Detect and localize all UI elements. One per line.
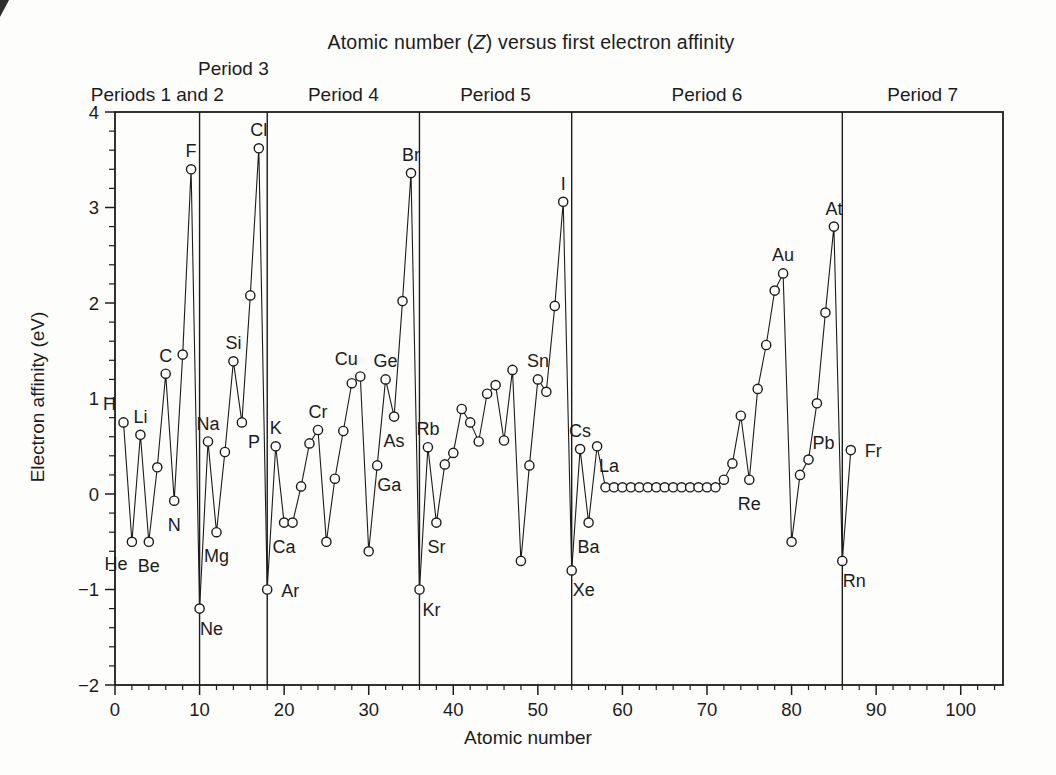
data-line <box>124 148 851 608</box>
title-variable-z: Z <box>474 31 486 53</box>
data-point <box>499 436 508 445</box>
data-point <box>812 399 821 408</box>
data-point <box>390 412 399 421</box>
data-point <box>356 372 365 381</box>
element-label: Xe <box>573 580 595 600</box>
element-label: Rb <box>416 419 439 439</box>
x-tick-label: 100 <box>945 699 976 720</box>
x-tick-label: 30 <box>358 699 379 720</box>
element-label: Fr <box>865 441 882 461</box>
element-label: Sr <box>427 537 445 557</box>
element-label: Ge <box>374 351 398 371</box>
x-tick-label: 60 <box>612 699 633 720</box>
data-point <box>838 556 847 565</box>
element-label: Au <box>772 245 794 265</box>
data-point <box>440 460 449 469</box>
title-text-post: ) versus first electron affinity <box>486 31 735 53</box>
element-label: Be <box>138 556 160 576</box>
x-axis-tick-labels: 0102030405060708090100 <box>110 699 976 720</box>
x-tick-label: 10 <box>189 699 210 720</box>
data-point <box>457 404 466 413</box>
element-label: As <box>384 431 405 451</box>
data-point <box>770 286 779 295</box>
x-tick-label: 90 <box>866 699 887 720</box>
data-point <box>237 418 246 427</box>
element-label: F <box>186 141 197 161</box>
data-point <box>297 482 306 491</box>
data-point <box>804 455 813 464</box>
x-tick-label: 50 <box>528 699 549 720</box>
period-label: Period 3 <box>198 58 269 80</box>
data-point <box>533 375 542 384</box>
data-point <box>516 556 525 565</box>
data-point <box>161 369 170 378</box>
data-point <box>347 379 356 388</box>
data-point <box>508 365 517 374</box>
page-title: Atomic number (Z) versus first electron … <box>328 31 735 54</box>
data-point <box>195 604 204 613</box>
period-label: Periods 1 and 2 <box>91 84 224 106</box>
data-point <box>330 474 339 483</box>
data-points <box>119 144 856 614</box>
data-point <box>762 340 771 349</box>
element-label: Ar <box>281 581 299 601</box>
data-point <box>313 425 322 434</box>
data-point <box>719 475 728 484</box>
data-point <box>483 389 492 398</box>
data-point <box>381 375 390 384</box>
element-label: Ga <box>377 475 402 495</box>
element-label: Br <box>402 145 420 165</box>
element-label: Kr <box>423 600 441 620</box>
data-point <box>153 463 162 472</box>
element-label: C <box>159 346 172 366</box>
data-point <box>119 418 128 427</box>
x-tick-label: 20 <box>274 699 295 720</box>
data-point <box>821 308 830 317</box>
data-point <box>288 518 297 527</box>
data-point <box>322 537 331 546</box>
data-point <box>127 537 136 546</box>
data-point <box>203 437 212 446</box>
element-label: La <box>599 456 620 476</box>
period-label: Period 7 <box>887 84 958 106</box>
element-label: Cr <box>309 402 328 422</box>
title-text-pre: Atomic number ( <box>328 31 474 53</box>
element-label: Ba <box>578 537 601 557</box>
data-point <box>550 301 559 310</box>
data-point <box>339 426 348 435</box>
element-label: Sn <box>527 351 549 371</box>
data-point <box>305 439 314 448</box>
data-point <box>474 437 483 446</box>
element-label: Li <box>133 407 147 427</box>
data-point <box>753 384 762 393</box>
element-label: K <box>270 418 282 438</box>
data-point <box>745 475 754 484</box>
y-axis-tick-labels: 43210−1−2 <box>78 102 99 696</box>
data-point <box>525 461 534 470</box>
data-point <box>711 483 720 492</box>
data-point <box>584 518 593 527</box>
scan-corner-artifact <box>0 0 9 17</box>
y-tick-label: 3 <box>89 197 99 218</box>
plot-border <box>115 112 1003 685</box>
y-tick-label: −1 <box>78 579 99 600</box>
element-label: Ne <box>200 619 223 639</box>
data-point <box>364 547 373 556</box>
data-point <box>423 443 432 452</box>
y-tick-label: 0 <box>89 484 99 505</box>
data-point <box>136 430 145 439</box>
element-labels: HHeLiBeCNFNeNaMgSiPClArKCaCrCuGaGeAsBrKr… <box>103 120 882 638</box>
data-point <box>779 269 788 278</box>
data-point <box>567 566 576 575</box>
data-point <box>373 461 382 470</box>
data-point <box>187 165 196 174</box>
element-label: Ca <box>273 537 297 557</box>
data-point <box>576 445 585 454</box>
y-tick-label: 2 <box>89 293 99 314</box>
element-label: Si <box>225 333 241 353</box>
element-label: P <box>248 432 260 452</box>
element-label: He <box>104 554 127 574</box>
data-point <box>491 381 500 390</box>
x-tick-label: 80 <box>781 699 802 720</box>
data-point <box>728 459 737 468</box>
